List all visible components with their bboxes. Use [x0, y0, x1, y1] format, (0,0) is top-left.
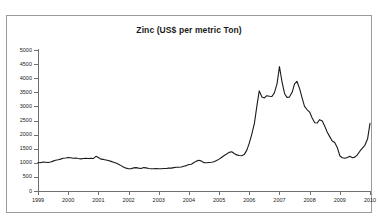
y-axis-tick	[34, 177, 39, 178]
y-axis-tick-label: 4500	[0, 61, 32, 67]
x-axis-tick-label: 2005	[213, 197, 225, 203]
x-axis-tick-label: 1999	[32, 197, 44, 203]
x-axis-tick-label: 2002	[122, 197, 134, 203]
top-cutoff-text-strip	[0, 0, 379, 13]
x-axis-tick-label: 2003	[153, 197, 165, 203]
x-axis-tick	[219, 191, 220, 195]
y-axis-tick-label: 2000	[0, 131, 32, 137]
x-axis-line	[38, 191, 371, 192]
y-axis-tick	[34, 92, 39, 93]
x-axis-tick-label: 2010	[364, 197, 376, 203]
screenshot-root: Zinc (US$ per metric Ton) 05001000150020…	[0, 0, 379, 218]
x-axis-tick	[159, 191, 160, 195]
x-axis-tick	[340, 191, 341, 195]
x-axis-tick-label: 2007	[273, 197, 285, 203]
x-axis-tick	[189, 191, 190, 195]
y-axis-tick-label: 0	[0, 188, 32, 194]
x-axis-tick-label: 2004	[183, 197, 195, 203]
x-axis-tick	[38, 191, 39, 195]
y-axis-tick-label: 4000	[0, 75, 32, 81]
y-axis-tick-label: 3500	[0, 89, 32, 95]
y-axis-tick-label: 1000	[0, 159, 32, 165]
x-axis-tick	[129, 191, 130, 195]
x-axis-tick	[98, 191, 99, 195]
y-axis-tick	[34, 64, 39, 65]
y-axis-tick	[34, 163, 39, 164]
y-axis-tick	[34, 78, 39, 79]
x-axis-tick	[279, 191, 280, 195]
y-axis-tick-label: 2500	[0, 117, 32, 123]
chart-frame: Zinc (US$ per metric Ton)	[6, 15, 372, 213]
x-axis-tick-label: 2006	[243, 197, 255, 203]
x-axis-tick-label: 2000	[62, 197, 74, 203]
y-axis-tick	[34, 50, 39, 51]
y-axis-tick	[34, 121, 39, 122]
y-axis-tick-label: 3000	[0, 103, 32, 109]
y-axis-tick	[34, 135, 39, 136]
x-axis-tick	[310, 191, 311, 195]
x-axis-tick-label: 2009	[334, 197, 346, 203]
y-axis-tick-label: 500	[0, 173, 32, 179]
x-axis-tick	[68, 191, 69, 195]
x-axis-tick-label: 2008	[304, 197, 316, 203]
chart-title: Zinc (US$ per metric Ton)	[7, 25, 371, 35]
y-axis-tick	[34, 106, 39, 107]
x-axis-tick	[249, 191, 250, 195]
y-axis-tick	[34, 149, 39, 150]
y-axis-tick-label: 1500	[0, 145, 32, 151]
x-axis-tick	[370, 191, 371, 195]
x-axis-tick-label: 2001	[92, 197, 104, 203]
y-axis-tick-label: 5000	[0, 47, 32, 53]
